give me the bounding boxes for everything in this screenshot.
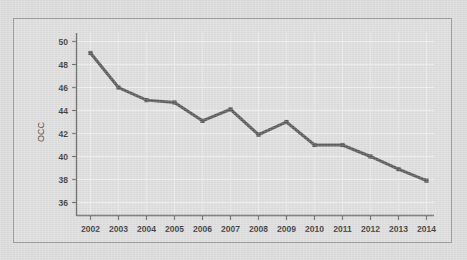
data-point-2009: [284, 120, 288, 124]
data-point-2006: [200, 119, 204, 123]
data-point-2013: [396, 167, 400, 171]
data-point-2003: [116, 85, 120, 89]
data-point-2012: [368, 154, 372, 158]
y-tick-label: 42: [59, 129, 69, 139]
data-point-2002: [88, 51, 92, 55]
data-point-2004: [144, 98, 148, 102]
line-chart: 50 48 46 44 42 40 38 36 2002 2003 2004 2…: [0, 0, 467, 260]
x-tick-label: 2002: [81, 224, 100, 234]
x-tick-label: 2005: [165, 224, 184, 234]
x-tick-label: 2011: [333, 224, 352, 234]
y-tick-label: 50: [59, 37, 69, 47]
y-tick-label: 40: [59, 152, 69, 162]
x-tick-label: 2008: [249, 224, 268, 234]
data-point-2011: [340, 143, 344, 147]
x-tick-label: 2012: [361, 224, 380, 234]
data-point-2014: [424, 179, 428, 183]
data-point-2007: [228, 107, 232, 111]
y-tick-labels: 50 48 46 44 42 40 38 36: [59, 37, 69, 208]
x-tick-label: 2006: [193, 224, 212, 234]
data-point-2005: [172, 100, 176, 104]
data-point-2010: [312, 143, 316, 147]
y-tick-label: 36: [59, 198, 69, 208]
y-tick-label: 46: [59, 83, 69, 93]
x-tick-labels: 2002 2003 2004 2005 2006 2007 2008 2009 …: [81, 224, 436, 234]
x-tick-label: 2013: [389, 224, 408, 234]
y-tick-label: 48: [59, 60, 69, 70]
x-tick-label: 2010: [305, 224, 324, 234]
x-tick-label: 2007: [221, 224, 240, 234]
x-tick-label: 2004: [137, 224, 156, 234]
x-tick-label: 2003: [109, 224, 128, 234]
gridlines-horizontal: [76, 42, 434, 203]
x-tick-label: 2009: [277, 224, 296, 234]
data-point-2008: [256, 133, 260, 137]
y-tick-label: 44: [59, 106, 69, 116]
chart-screenshot: 50 48 46 44 42 40 38 36 2002 2003 2004 2…: [0, 0, 467, 260]
y-axis-title: OCC: [36, 122, 46, 143]
gridlines-vertical: [91, 33, 427, 216]
y-tick-label: 38: [59, 175, 69, 185]
x-tick-label: 2014: [417, 224, 436, 234]
